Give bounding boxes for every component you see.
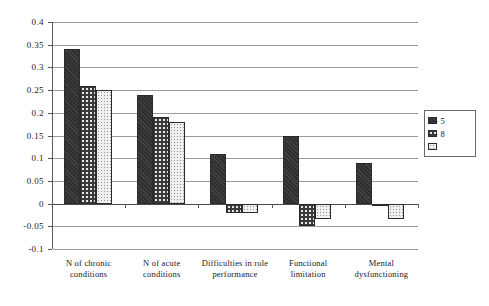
y-tick-label: 0.35 — [27, 40, 44, 50]
chart-figure: 0.40.350.30.250.20.150.10.050-0.05-0.1 N… — [0, 0, 489, 306]
x-axis-label-1: N of acute conditions — [125, 258, 198, 280]
bar-0-1 — [80, 86, 96, 204]
bar-2-1 — [226, 204, 242, 213]
x-tick-mark — [125, 204, 126, 208]
x-tick-mark — [418, 204, 419, 208]
plot-area — [52, 22, 418, 249]
x-tick-mark — [272, 204, 273, 208]
legend-swatch-icon — [428, 143, 437, 150]
bar-0-2 — [96, 90, 112, 204]
y-tick-label: -0.05 — [23, 221, 44, 231]
y-tick-label: 0.05 — [27, 176, 44, 186]
x-axis-label-0: N of chronic conditions — [52, 258, 125, 280]
bar-3-2 — [315, 204, 331, 220]
y-tick-label: 0.3 — [32, 62, 44, 72]
bar-4-2 — [388, 204, 404, 220]
bar-3-1 — [299, 204, 315, 227]
axis-bottom-line — [53, 249, 418, 250]
y-tick-mark — [48, 249, 52, 250]
x-axis-label-4: Mental dysfunctioning — [345, 258, 418, 280]
bar-1-1 — [153, 117, 169, 203]
legend-item-0[interactable]: 0 - 5 — [428, 114, 472, 127]
x-axis-label-3: Functional limitation — [272, 258, 345, 280]
bar-2-0 — [210, 154, 226, 204]
bar-2-2 — [242, 204, 258, 213]
bar-0-0 — [64, 49, 80, 203]
y-tick-label: 0.15 — [27, 131, 44, 141]
y-tick-label: 0.1 — [32, 153, 44, 163]
x-tick-mark — [198, 204, 199, 208]
bar-3-0 — [283, 136, 299, 204]
legend-item-2[interactable]: 9+ — [428, 140, 472, 153]
y-tick-label: 0.25 — [27, 85, 44, 95]
y-tick-label: 0 — [39, 199, 44, 209]
gridline — [53, 22, 418, 23]
bar-1-2 — [169, 122, 185, 204]
gridline — [53, 45, 418, 46]
y-tick-label: 0.2 — [32, 108, 44, 118]
gridline — [53, 67, 418, 68]
legend-item-1[interactable]: 6 - 8 — [428, 127, 472, 140]
x-axis-label-2: Difficulties in role performance — [198, 258, 271, 280]
gridline — [53, 226, 418, 227]
x-tick-mark — [345, 204, 346, 208]
y-tick-label: 0.4 — [32, 17, 44, 27]
legend-swatch-icon — [428, 117, 437, 124]
bar-4-1 — [372, 204, 388, 206]
legend-swatch-icon — [428, 130, 437, 137]
y-tick-label: -0.1 — [28, 244, 44, 254]
bar-4-0 — [356, 163, 372, 204]
bar-1-0 — [137, 95, 153, 204]
chart-legend: 0 - 56 - 89+ — [424, 110, 476, 157]
